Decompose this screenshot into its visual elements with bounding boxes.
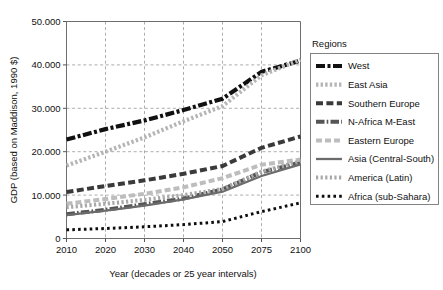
- legend-item-label: Southern Europe: [348, 98, 420, 109]
- x-tick-label: 2040: [173, 244, 194, 255]
- x-tick-label: 2010: [56, 244, 77, 255]
- y-axis-tick-labels: 010.00020.00030.00040.00050.000: [31, 16, 60, 244]
- x-axis-tick-labels: 2010202020302040205020752100: [56, 244, 311, 255]
- y-tick-label: 10.000: [31, 190, 60, 201]
- legend-item-label: N-Africa M-East: [348, 116, 415, 127]
- x-tick-label: 2100: [290, 244, 311, 255]
- legend-title: Regions: [312, 38, 347, 49]
- y-tick-label: 20.000: [31, 146, 60, 157]
- x-tick-label: 2050: [212, 244, 233, 255]
- y-tick-label: 40.000: [31, 59, 60, 70]
- gdp-regions-chart: 2010202020302040205020752100 010.00020.0…: [0, 0, 443, 290]
- y-tick-label: 30.000: [31, 103, 60, 114]
- x-tick-label: 2075: [251, 244, 272, 255]
- legend-item-label: Asia (Central-South): [348, 153, 434, 164]
- legend-item-label: Eastern Europe: [348, 135, 414, 146]
- x-axis-title: Year (decades or 25 year intervals): [109, 268, 257, 279]
- legend-item-label: Africa (sub-Sahara): [348, 191, 430, 202]
- chart-figure: 2010202020302040205020752100 010.00020.0…: [0, 0, 443, 290]
- legend-item-label: West: [348, 60, 370, 71]
- x-tick-label: 2030: [134, 244, 155, 255]
- y-tick-label: 50.000: [31, 16, 60, 27]
- x-tick-label: 2020: [95, 244, 116, 255]
- y-axis-title: GDP (based on Maddison, 1990 $): [8, 57, 19, 204]
- legend-item-label: America (Latin): [348, 172, 412, 183]
- legend-item-label: East Asia: [348, 79, 388, 90]
- y-tick-label: 0: [55, 233, 60, 244]
